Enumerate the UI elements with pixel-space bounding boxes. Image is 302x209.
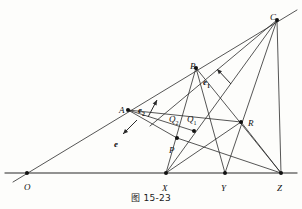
vector-e2 [148, 100, 157, 117]
point-dot-A [126, 108, 130, 112]
vector-label-e1: e1 [203, 78, 210, 89]
segment-C-to-Z [277, 20, 281, 173]
point-dot-Q1 [192, 129, 196, 133]
point-label-Q1: Q1 [187, 115, 197, 126]
point-label-text: A [119, 105, 125, 115]
point-label-text: R [248, 118, 254, 128]
point-dot-O [25, 171, 29, 175]
vector-label-text: e [114, 139, 118, 149]
figure-caption: 图 15-23 [0, 194, 302, 203]
vector-e [123, 120, 137, 134]
point-label-text: C [270, 12, 276, 22]
segment-C-to-X [166, 20, 277, 173]
point-label-subscript: 1 [194, 120, 197, 126]
point-label-C: C [270, 13, 276, 22]
figure-container: ee2e1OABCXYZPQ2Q1R 图 15-23 [0, 0, 302, 209]
segment-C-to-Y [225, 20, 277, 173]
point-dot-Z [279, 171, 283, 175]
point-label-text: P [169, 145, 175, 155]
point-label-text: Z [277, 183, 282, 193]
point-label-Z: Z [277, 184, 282, 193]
segment-ray-O-C [13, 10, 297, 182]
segment-layer [5, 10, 297, 182]
point-label-B: B [190, 62, 196, 71]
segment-X-to-R [166, 122, 241, 173]
point-label-Y: Y [221, 184, 226, 193]
geometry-diagram [0, 0, 302, 209]
segment-C-to-P [150, 20, 277, 126]
vector-label-e: e [114, 140, 118, 149]
point-label-text: Y [221, 183, 226, 193]
vector-e1 [217, 69, 231, 84]
point-label-O: O [24, 183, 31, 192]
segment-P-to-Z [177, 138, 281, 173]
segment-R-to-Z [241, 122, 281, 173]
point-label-Q2: Q2 [169, 115, 179, 126]
point-label-X: X [162, 184, 168, 193]
point-dot-R [239, 120, 243, 124]
vector-label-subscript: 1 [207, 83, 210, 89]
point-label-text: B [190, 61, 196, 71]
point-dot-X [164, 171, 168, 175]
point-dot-P [175, 136, 179, 140]
point-label-A: A [119, 106, 125, 115]
point-label-R: R [248, 119, 254, 128]
point-label-subscript: 2 [176, 120, 179, 126]
vector-label-subscript: 2 [142, 111, 145, 117]
vector-label-e2: e2 [138, 106, 145, 117]
point-label-text: X [162, 183, 168, 193]
point-dot-Y [223, 171, 227, 175]
point-label-P: P [169, 146, 175, 155]
point-label-text: O [24, 182, 31, 192]
